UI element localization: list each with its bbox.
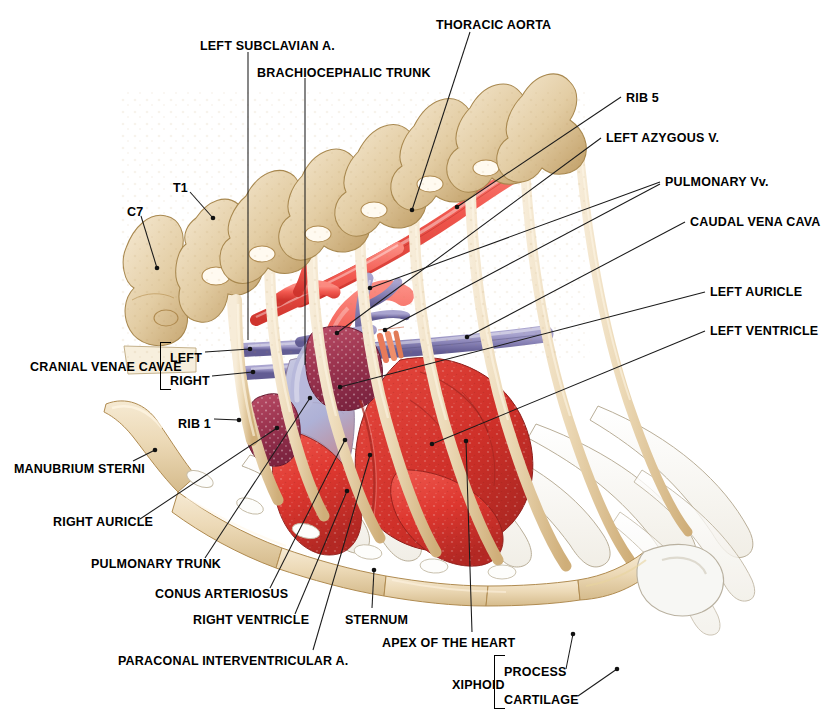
leader-dot-rib1 <box>237 418 242 423</box>
leader-dot-pulmonary-vv-a <box>368 286 373 291</box>
leader-cvc-left <box>205 349 250 352</box>
leader-dot-conus-arteriosus <box>343 438 348 443</box>
label-xiphoid-cartilage: CARTILAGE <box>504 694 579 707</box>
leader-dot-paraconal <box>368 453 373 458</box>
leader-dot-pulmonary-vv-b <box>383 328 388 333</box>
leader-dot-sternum <box>372 568 377 573</box>
label-left-auricle: LEFT AURICLE <box>710 286 802 299</box>
label-rib-5: RIB 5 <box>626 92 659 105</box>
leader-left-ventricle <box>432 331 705 444</box>
leader-sternum <box>372 570 374 608</box>
label-caudal-vena-cava: CAUDAL VENA CAVA <box>690 216 821 229</box>
label-brachiocephalic-trunk: BRACHIOCEPHALIC TRUNK <box>257 67 431 80</box>
leader-dot-apex-of-the-heart <box>464 439 469 444</box>
leader-t1 <box>190 192 213 218</box>
leader-conus-arteriosus <box>270 440 345 588</box>
label-pulmonary-trunk: PULMONARY TRUNK <box>91 558 221 571</box>
leader-right-auricle <box>140 428 277 519</box>
leader-xiphoid-cartilage <box>578 669 617 696</box>
leader-cvc-right <box>212 372 253 376</box>
leader-manubrium-sterni <box>133 450 155 461</box>
leader-dot-c7 <box>155 266 160 271</box>
leader-rib1 <box>214 419 239 420</box>
label-manubrium-sterni: MANUBRIUM STERNI <box>14 463 145 476</box>
label-apex-of-the-heart: APEX OF THE HEART <box>382 637 515 650</box>
label-conus-arteriosus: CONUS ARTERIOSUS <box>155 588 288 601</box>
label-left-subclavian: LEFT SUBCLAVIAN A. <box>200 40 335 53</box>
leader-left-auricle <box>340 292 705 387</box>
anatomy-figure: LEFT SUBCLAVIAN A. BRACHIOCEPHALIC TRUNK… <box>0 0 822 723</box>
leader-right-ventricle <box>295 491 347 614</box>
leader-dot-pulmonary-trunk <box>308 396 313 401</box>
leader-dot-left-auricle <box>338 385 343 390</box>
leader-pulmonary-trunk <box>205 398 310 558</box>
leader-pulmonary-vv-a <box>370 182 660 288</box>
leader-dot-right-ventricle <box>345 489 350 494</box>
label-rib-1: RIB 1 <box>178 418 211 431</box>
label-xiphoid-process: PROCESS <box>504 666 567 679</box>
leader-rib5 <box>457 97 621 207</box>
label-cvc-right: RIGHT <box>170 375 210 388</box>
label-thoracic-aorta: THORACIC AORTA <box>436 19 551 32</box>
label-pulmonary-veins: PULMONARY Vv. <box>665 176 769 189</box>
leader-dot-t1 <box>211 216 216 221</box>
label-cranial-venae-cavae: CRANIAL VENAE CAVAE <box>30 361 182 374</box>
leader-apex-of-the-heart <box>466 441 472 632</box>
leader-dot-manubrium-sterni <box>153 448 158 453</box>
label-cvc-left: LEFT <box>170 352 202 365</box>
label-left-ventricle: LEFT VENTRICLE <box>710 325 818 338</box>
label-sternum: STERNUM <box>345 614 408 627</box>
leader-dot-xiphoid-process <box>571 632 576 637</box>
label-t1: T1 <box>173 182 188 195</box>
leader-dot-left-ventricle <box>430 442 435 447</box>
leader-dot-caudal-vena-cava <box>465 335 470 340</box>
leader-dot-cvc-right <box>251 370 256 375</box>
leader-dot-right-auricle <box>275 426 280 431</box>
label-paraconal-interventricular-artery: PARACONAL INTERVENTRICULAR A. <box>118 655 348 668</box>
label-right-auricle: RIGHT AURICLE <box>53 516 153 529</box>
leader-dot-xiphoid-cartilage <box>615 667 620 672</box>
leader-caudal-vena-cava <box>467 222 685 337</box>
leader-dot-cvc-left <box>248 347 253 352</box>
label-left-azygous-vein: LEFT AZYGOUS V. <box>606 132 719 145</box>
leader-dot-thoracic-aorta <box>410 208 415 213</box>
label-c7: C7 <box>127 206 143 219</box>
leader-dot-left-azygous <box>335 331 340 336</box>
label-xiphoid: XIPHOID <box>452 679 505 692</box>
leader-dot-rib5 <box>455 205 460 210</box>
label-right-ventricle: RIGHT VENTRICLE <box>193 614 309 627</box>
leader-xiphoid-process <box>566 634 573 669</box>
leader-left-azygous <box>337 138 601 333</box>
leader-c7 <box>141 216 157 268</box>
leader-thoracic-aorta <box>412 32 470 210</box>
